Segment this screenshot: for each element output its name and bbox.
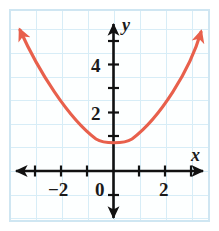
origin-label: 0 [95, 180, 105, 199]
parabola-curve [20, 30, 201, 143]
graph-svg [0, 0, 219, 231]
graph-figure: −2 0 2 2 4 x y [0, 0, 219, 231]
y-tick-label-4: 4 [91, 56, 101, 75]
x-tick-label-neg2: −2 [48, 180, 68, 199]
x-axis-label: x [191, 146, 200, 164]
y-axis-label: y [122, 16, 130, 34]
x-tick-label-2: 2 [159, 180, 169, 199]
plot-area: −2 0 2 2 4 x y [0, 0, 219, 231]
y-tick-label-2: 2 [91, 104, 101, 123]
